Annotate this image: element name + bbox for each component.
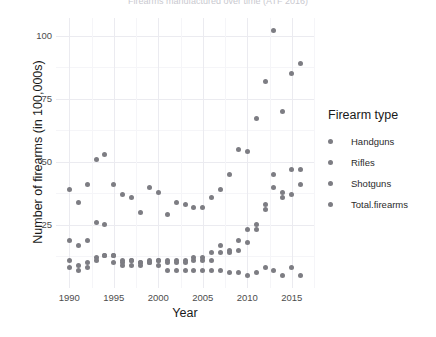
data-point <box>227 172 232 177</box>
gridline-horizontal-minor <box>56 130 314 131</box>
data-point <box>271 28 276 33</box>
data-point <box>147 185 152 190</box>
data-point <box>227 270 232 275</box>
data-point <box>85 265 90 270</box>
data-point <box>200 258 205 263</box>
data-point <box>236 147 241 152</box>
data-point <box>191 205 196 210</box>
data-point <box>236 270 241 275</box>
data-point <box>191 268 196 273</box>
legend-item[interactable]: Total.firearms <box>320 194 436 215</box>
data-point <box>200 268 205 273</box>
gridline-vertical-minor <box>225 18 226 288</box>
legend-key <box>320 160 341 165</box>
data-point <box>298 167 303 172</box>
data-point <box>102 222 107 227</box>
data-point <box>76 268 81 273</box>
data-point <box>111 182 116 187</box>
data-point <box>289 265 294 270</box>
chart-title: Firearms manufactured over time (ATF 201… <box>0 0 436 6</box>
data-point <box>120 192 125 197</box>
data-point <box>245 149 250 154</box>
data-point <box>67 238 72 243</box>
chart-root: Firearms manufactured over time (ATF 201… <box>0 0 436 337</box>
y-tick-label: 100 <box>6 31 52 41</box>
data-point <box>174 268 179 273</box>
y-tick-label: 75 <box>6 94 52 104</box>
legend-item-label: Shotguns <box>351 178 391 189</box>
data-point <box>76 200 81 205</box>
data-point <box>76 243 81 248</box>
gridline-vertical-minor <box>92 18 93 288</box>
gridline-vertical <box>114 18 115 288</box>
legend-items: HandgunsRiflesShotgunsTotal.firearms <box>320 131 436 215</box>
legend-item[interactable]: Rifles <box>320 152 436 173</box>
data-point <box>120 263 125 268</box>
data-point <box>227 250 232 255</box>
legend-key <box>320 181 341 186</box>
data-point <box>129 263 134 268</box>
data-point <box>298 61 303 66</box>
data-point <box>271 268 276 273</box>
legend: Firearm type HandgunsRiflesShotgunsTotal… <box>320 108 436 215</box>
data-point <box>200 205 205 210</box>
gridline-vertical-minor <box>270 18 271 288</box>
gridline-horizontal <box>56 36 314 37</box>
legend-key <box>320 139 341 144</box>
plot-panel <box>56 18 314 288</box>
data-point <box>67 265 72 270</box>
data-point <box>254 270 259 275</box>
x-axis-ticks: 199019952000200520102015 <box>56 292 314 306</box>
data-point <box>147 258 152 263</box>
gridline-vertical <box>292 18 293 288</box>
y-tick-label: 50 <box>6 157 52 167</box>
data-point <box>183 268 188 273</box>
data-point <box>236 248 241 253</box>
legend-item-label: Handguns <box>351 136 394 147</box>
legend-title: Firearm type <box>328 108 436 122</box>
gridline-vertical <box>203 18 204 288</box>
data-point <box>271 185 276 190</box>
data-point <box>94 220 99 225</box>
x-tick-label: 1995 <box>94 292 134 303</box>
legend-dot-icon <box>328 202 333 207</box>
data-point <box>183 260 188 265</box>
data-point <box>85 238 90 243</box>
data-point <box>209 195 214 200</box>
gridline-horizontal-minor <box>56 193 314 194</box>
gridline-vertical-minor <box>181 18 182 288</box>
data-point <box>138 210 143 215</box>
gridline-vertical-minor <box>314 18 315 288</box>
legend-dot-icon <box>328 181 333 186</box>
data-point <box>245 273 250 278</box>
legend-item[interactable]: Shotguns <box>320 173 436 194</box>
data-point <box>254 227 259 232</box>
data-point <box>218 268 223 273</box>
data-point <box>218 187 223 192</box>
data-point <box>156 258 161 263</box>
data-point <box>280 273 285 278</box>
data-point <box>254 116 259 121</box>
x-tick-label: 1990 <box>49 292 89 303</box>
data-point <box>129 195 134 200</box>
gridline-horizontal <box>56 225 314 226</box>
data-point <box>156 263 161 268</box>
data-point <box>94 258 99 263</box>
data-point <box>165 260 170 265</box>
data-point <box>165 212 170 217</box>
data-point <box>289 192 294 197</box>
data-point <box>298 182 303 187</box>
data-point <box>263 79 268 84</box>
legend-item-label: Total.firearms <box>351 199 408 210</box>
legend-item-label: Rifles <box>351 157 375 168</box>
gridline-vertical <box>158 18 159 288</box>
data-point <box>165 268 170 273</box>
x-tick-label: 2010 <box>227 292 267 303</box>
data-point <box>236 238 241 243</box>
data-point <box>174 200 179 205</box>
data-point <box>271 172 276 177</box>
legend-item[interactable]: Handguns <box>320 131 436 152</box>
data-point <box>280 109 285 114</box>
x-tick-label: 2000 <box>138 292 178 303</box>
data-point <box>174 260 179 265</box>
